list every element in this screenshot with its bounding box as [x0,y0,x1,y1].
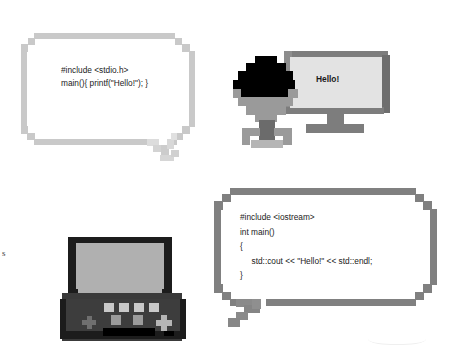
c-code-text: #include <stdio.h> main(){ printf("Hello… [61,64,148,90]
c-code-speech-bubble: #include <stdio.h> main(){ printf("Hello… [21,33,201,151]
character-body [238,97,293,106]
bubble-tail-step [228,318,240,327]
bubble-border-corner [182,126,190,134]
bubble-border-bottom [34,139,147,145]
console-button[interactable] [104,303,114,312]
character-foot [283,135,292,145]
bubble-border-top [34,33,175,39]
bubble-tail-step [252,299,261,309]
console-dpad-left[interactable] [87,316,92,329]
bubble-border-top [230,188,416,195]
bubble-border-left [21,51,27,127]
bubble-border-corner [175,38,182,45]
console-indicator [164,331,174,336]
console-button[interactable] [134,303,144,312]
bubble-tail-step [167,139,174,149]
bubble-tail-step [171,133,177,140]
console-button[interactable] [119,303,129,312]
console-button-mid[interactable] [111,315,121,325]
console-dpad-right[interactable] [161,315,167,331]
console-screen [76,243,164,293]
illustration-canvas: #include <stdio.h> main(){ printf("Hello… [0,0,451,359]
pixel-character [233,56,315,152]
bubble-border-right [189,51,195,127]
bubble-border-right [430,209,437,285]
bubble-border-corner [28,38,35,45]
handheld-game-console [60,237,188,347]
cpp-code-text: #include <iostream> int main() { std::co… [240,210,372,283]
bubble-border-corner [415,292,424,300]
monitor-screen-text: Hello! [316,74,339,84]
bubble-border-left [214,209,221,285]
bubble-tail-step [171,150,179,157]
character-foot [242,135,250,145]
page-margin-artifact: s [2,248,6,258]
bubble-border-corner [222,194,231,202]
console-button-mid[interactable] [133,315,143,325]
console-slot [103,328,155,336]
bubble-border-bottom [266,299,416,306]
monitor-frame-right [382,55,390,113]
character-base [251,140,283,148]
cpp-code-speech-bubble: #include <iostream> int main() { std::co… [214,188,442,325]
bubble-border-corner [423,284,432,293]
scan-smudge [368,330,426,345]
bubble-interior [21,47,201,137]
character-leg [259,120,275,140]
console-button[interactable] [149,303,159,312]
